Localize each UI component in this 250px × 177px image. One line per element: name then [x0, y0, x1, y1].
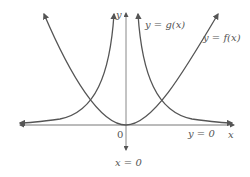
origin-label: 0	[117, 130, 123, 140]
y-axis-label: y	[116, 10, 122, 20]
horizontal-asymptote-label: y = 0	[188, 129, 215, 139]
g-curve-left-branch	[20, 14, 114, 123]
graph-canvas	[0, 0, 250, 177]
f-curve-label: y = f(x)	[203, 33, 241, 43]
g-curve-label: y = g(x)	[145, 20, 185, 30]
f-curve	[44, 14, 218, 125]
vertical-asymptote-label: x = 0	[115, 158, 142, 168]
x-axis-label: x	[228, 130, 234, 140]
